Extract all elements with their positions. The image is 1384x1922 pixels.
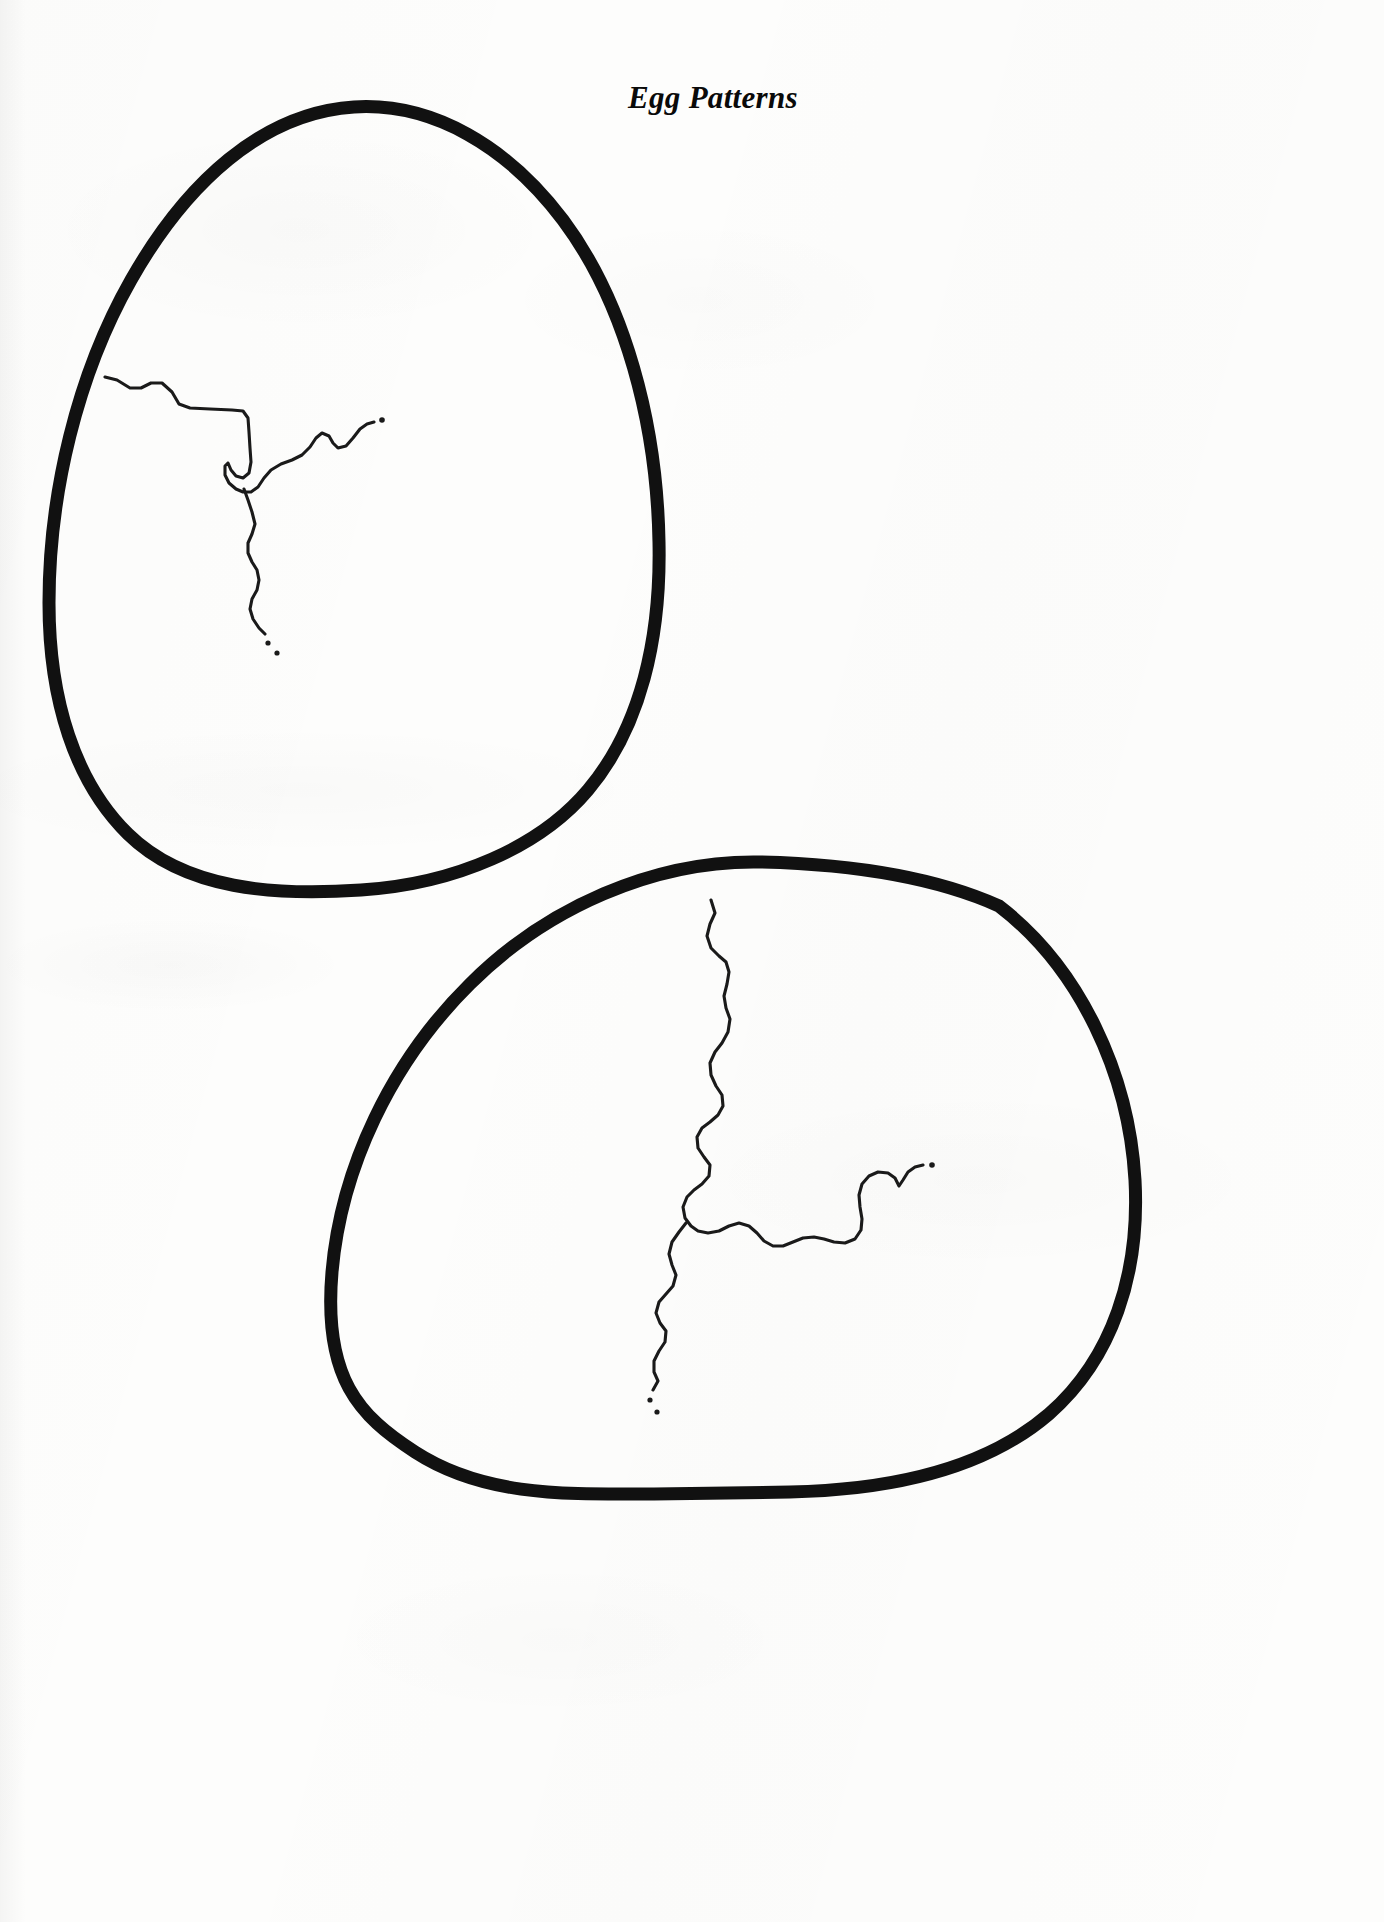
egg-1-crack-dot-2 — [274, 650, 279, 655]
egg-2-outline — [331, 862, 1136, 1494]
egg-1-crack-branch — [244, 489, 265, 634]
egg-1-outline — [49, 107, 659, 892]
egg-2-crack-main — [683, 900, 923, 1246]
egg-figure-1 — [49, 107, 659, 892]
egg-2-crack-tip-dot — [929, 1162, 935, 1168]
egg-2-crack-branch — [653, 1223, 686, 1390]
egg-1-crack-main — [105, 377, 374, 492]
egg-1-crack-dot-1 — [265, 640, 270, 645]
egg-figure-2 — [331, 862, 1136, 1494]
egg-2-crack-dot-1 — [647, 1397, 652, 1402]
egg-patterns-page: Egg Patterns — [0, 0, 1384, 1922]
egg-1-crack-tip-dot — [379, 417, 385, 423]
egg-patterns-artwork — [0, 0, 1384, 1922]
egg-2-crack-dot-2 — [654, 1409, 659, 1414]
